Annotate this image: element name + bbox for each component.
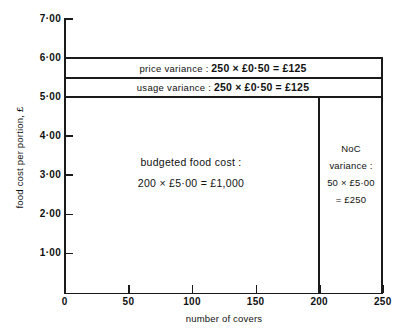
- y-tick-label-7: 7·00: [1, 13, 61, 24]
- price-variance-calc: 250 × £0·50 = £125: [211, 62, 306, 74]
- noc-variance-line1: NoC: [319, 140, 383, 157]
- x-tick-label-100: 100: [162, 296, 222, 307]
- y-tick-label-5: 5·00: [1, 91, 61, 102]
- y-tick-label-2: 2·00: [1, 208, 61, 219]
- x-tick-label-150: 150: [226, 296, 286, 307]
- noc-variance-line3: 50 × £5·00: [319, 174, 383, 191]
- x-tick-label-50: 50: [98, 296, 158, 307]
- chart-canvas: food cost per portion, £ number of cover…: [0, 0, 402, 333]
- x-tick-50: [128, 285, 129, 293]
- region-line-5-00: [64, 96, 383, 98]
- x-tick-label-0: 0: [35, 296, 95, 307]
- x-axis-spine: [64, 293, 383, 295]
- y-tick-label-4: 4·00: [1, 130, 61, 141]
- y-tick-label-3: 3·00: [1, 169, 61, 180]
- x-tick-0: [65, 285, 66, 293]
- x-tick-100: [192, 285, 193, 293]
- price-variance-lead: price variance :: [139, 63, 208, 74]
- x-axis-title: number of covers: [65, 313, 383, 324]
- y-tick-1: [65, 253, 73, 254]
- usage-variance-lead: usage variance :: [137, 82, 212, 93]
- region-line-6-00: [64, 57, 383, 59]
- price-variance-label: price variance : 250 × £0·50 = £125: [64, 62, 382, 74]
- noc-variance-line2: variance :: [319, 157, 383, 174]
- y-tick-label-1: 1·00: [1, 247, 61, 258]
- region-line-5-50: [64, 77, 383, 79]
- y-tick-2: [65, 214, 73, 215]
- x-tick-label-250: 250: [353, 296, 402, 307]
- budgeted-food-cost-line1: budgeted food cost :: [64, 152, 318, 173]
- budgeted-food-cost-line2: 200 × £5·00 = £1,000: [64, 173, 318, 194]
- x-tick-150: [256, 285, 257, 293]
- usage-variance-label: usage variance : 250 × £0·50 = £125: [64, 81, 382, 93]
- x-tick-label-200: 200: [289, 296, 349, 307]
- noc-variance-label: NoC variance : 50 × £5·00 = £250: [319, 140, 383, 208]
- y-tick-7: [65, 18, 73, 19]
- y-tick-4: [65, 135, 73, 136]
- y-tick-label-6: 6·00: [1, 52, 61, 63]
- noc-variance-line4: = £250: [319, 191, 383, 208]
- usage-variance-calc: 250 × £0·50 = £125: [214, 81, 309, 93]
- budgeted-food-cost-label: budgeted food cost : 200 × £5·00 = £1,00…: [64, 152, 318, 194]
